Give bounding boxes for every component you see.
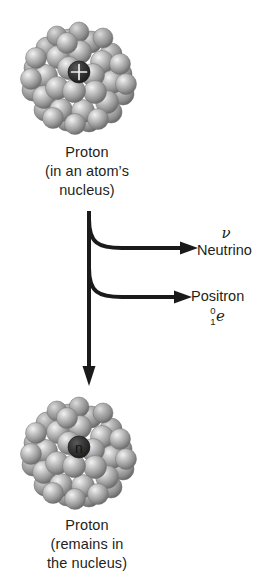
main-decay-arrowhead [83, 366, 96, 386]
top-nucleus-center-marker [68, 61, 90, 83]
positron-name: Positron [191, 288, 244, 305]
top-caption-line-2: (in an atom’s [7, 162, 167, 181]
neutrino-branch-arrowhead [180, 242, 198, 255]
bottom-caption-line-1: Proton [7, 516, 167, 535]
neutrino-label: ν Neutrino [197, 225, 255, 259]
bottom-caption-line-3: the nucleus) [7, 554, 167, 573]
positron-element-symbol: e [216, 307, 225, 325]
bottom-caption-line-2: (remains in [7, 535, 167, 554]
top-caption-line-1: Proton [7, 143, 167, 162]
top-nucleus-cluster [17, 18, 141, 142]
positron-nuclide-notation: 0 1 e [191, 306, 244, 326]
neutrino-branch-shaft [89, 219, 185, 248]
decay-diagram: Proton (in an atom’s nucleus) ν Neutrino… [0, 0, 269, 585]
top-caption-line-3: nucleus) [7, 181, 167, 200]
nu-symbol: ν [197, 225, 255, 242]
positron-branch-arrowhead [174, 291, 192, 304]
positron-label: Positron 0 1 e [191, 288, 244, 326]
neutrino-name: Neutrino [197, 242, 255, 259]
bottom-caption: Proton (remains in the nucleus) [7, 516, 167, 573]
bottom-nucleus-center-marker: n [68, 436, 90, 458]
bottom-nucleus-cluster: n [17, 393, 141, 517]
svg-text:n: n [75, 440, 83, 456]
positron-charge-number: 1 [210, 317, 215, 327]
positron-mass-number: 0 [210, 306, 215, 316]
top-caption: Proton (in an atom’s nucleus) [7, 143, 167, 200]
positron-branch-shaft [89, 268, 179, 297]
